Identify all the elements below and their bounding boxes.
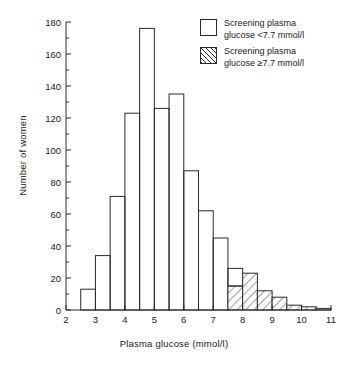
legend-swatch-open [200,19,217,36]
legend: Screening plasma glucose <7.7 mmol/l Scr… [200,18,340,74]
x-tick-label: 11 [326,314,336,325]
x-tick-label: 5 [152,314,157,325]
legend-swatch-hatched [200,47,217,64]
y-tick-label: 60 [50,209,61,220]
histogram-figure: Number of women Plasma glucose (mmol/l) … [0,0,348,365]
x-tick-label: 4 [122,314,127,325]
y-tick-label: 0 [56,305,61,316]
y-axis-title: Number of women [17,76,28,236]
y-tick-label: 140 [45,81,61,92]
legend-item-hatched: Screening plasma glucose ≥7.7 mmol/l [200,46,340,69]
x-tick-label: 9 [269,314,274,325]
x-tick-label: 8 [240,314,245,325]
x-tick-label: 3 [93,314,98,325]
legend-label-open: Screening plasma glucose <7.7 mmol/l [224,18,304,41]
x-axis-title: Plasma glucose (mmol/l) [0,338,348,349]
x-tick-label: 6 [181,314,186,325]
y-tick-label: 100 [45,145,61,156]
x-tick-label: 7 [211,314,216,325]
x-tick-label: 10 [296,314,307,325]
x-tick-label: 2 [63,314,68,325]
y-tick-label: 120 [45,113,61,124]
y-tick-label: 20 [50,273,61,284]
y-tick-label: 160 [45,49,61,60]
y-tick-label: 40 [50,241,61,252]
legend-item-open: Screening plasma glucose <7.7 mmol/l [200,18,340,41]
legend-label-hatched: Screening plasma glucose ≥7.7 mmol/l [224,46,304,69]
y-tick-label: 180 [45,17,61,28]
y-tick-label: 80 [50,177,61,188]
